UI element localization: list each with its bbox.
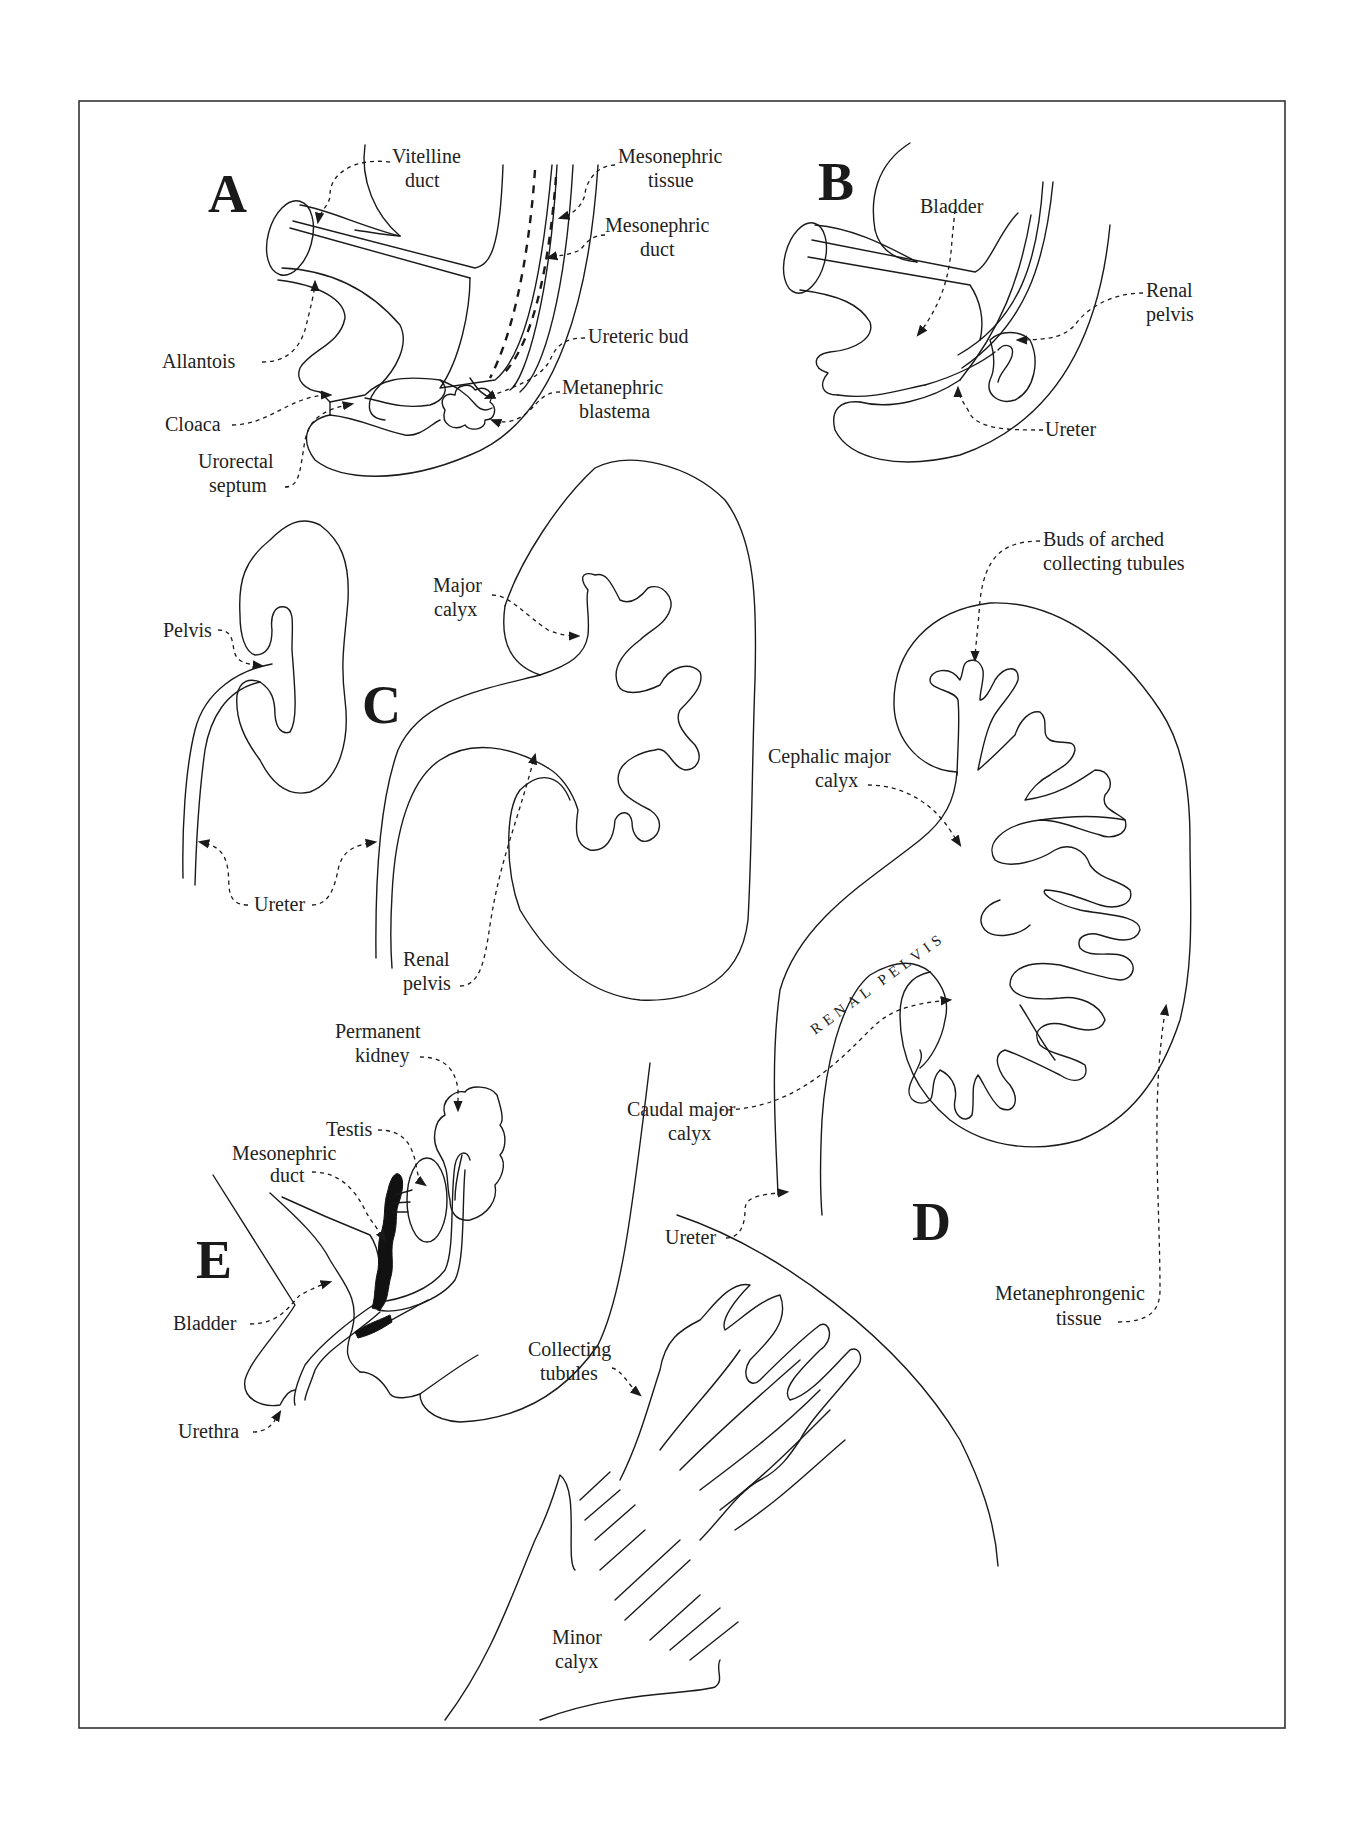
label-mesonephric-duct-a: Mesonephricduct <box>605 214 710 260</box>
kidney-development-figure: A Vitellineduct Mesonephr <box>0 0 1347 1824</box>
label-mesonephric-tissue: Mesonephrictissue <box>618 145 723 191</box>
panel-e: E Permanentkidney Testis Mesonephricduct… <box>173 1020 998 1720</box>
label-renal-pelvis-d: RENAL PELVIS <box>807 929 948 1038</box>
label-metanephrongenic-tissue: Metanephrongenictissue <box>995 1282 1145 1329</box>
label-testis: Testis <box>326 1118 373 1140</box>
panel-d-letter: D <box>912 1192 951 1252</box>
label-urorectal-septum: Urorectalseptum <box>198 450 274 497</box>
panel-c-letter: C <box>362 675 401 735</box>
label-collecting-tubules: Collectingtubules <box>528 1338 611 1384</box>
label-bladder-e: Bladder <box>173 1312 237 1334</box>
label-major-calyx-c: Majorcalyx <box>433 574 482 621</box>
label-urethra: Urethra <box>178 1420 239 1442</box>
label-ureter-b: Ureter <box>1045 418 1096 440</box>
label-minor-calyx: Minorcalyx <box>552 1626 602 1673</box>
panel-d: D RENAL PELVIS Buds of archedcollecting … <box>627 528 1191 1329</box>
label-cephalic-major-calyx: Cephalic majorcalyx <box>768 745 891 792</box>
panel-a-letter: A <box>208 164 247 224</box>
label-ureteric-bud: Ureteric bud <box>588 325 689 347</box>
label-ureter-c: Ureter <box>254 893 305 915</box>
label-vitelline-duct: Vitellineduct <box>392 145 461 191</box>
label-buds-arched-tubules: Buds of archedcollecting tubules <box>1043 528 1185 575</box>
panel-c: C Pelvis Majorcalyx Ureter Renalpelvis <box>163 460 756 1000</box>
label-pelvis-c: Pelvis <box>163 619 212 641</box>
label-mesonephric-duct-e: Mesonephricduct <box>232 1142 337 1186</box>
label-permanent-kidney: Permanentkidney <box>335 1020 421 1067</box>
panel-b: B Bladder Renalpelvis Ureter <box>776 143 1194 462</box>
label-cloaca: Cloaca <box>165 413 221 435</box>
label-allantois: Allantois <box>162 350 236 372</box>
label-renal-pelvis-b: Renalpelvis <box>1146 279 1194 326</box>
panel-e-letter: E <box>196 1230 232 1290</box>
panel-a: A Vitellineduct Mesonephr <box>162 145 723 497</box>
panel-b-letter: B <box>818 152 854 212</box>
label-ureter-d: Ureter <box>665 1226 716 1248</box>
label-metanephric-blastema: Metanephricblastema <box>562 376 663 422</box>
label-renal-pelvis-c: Renalpelvis <box>403 948 451 995</box>
label-bladder-b: Bladder <box>920 195 984 217</box>
